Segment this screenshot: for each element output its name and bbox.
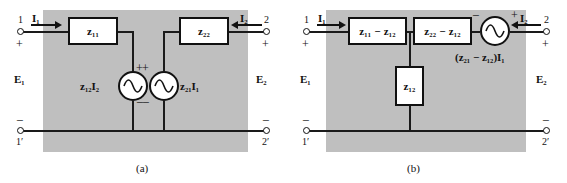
z11-minus-z12-box-label: z₁₁ − z₁₂ bbox=[359, 25, 396, 37]
terminal-2-plus-sign: + bbox=[262, 38, 269, 50]
z22-minus-z12-box: z₂₂ − z₁₂ bbox=[413, 17, 472, 45]
wire-left-branch-top-a bbox=[132, 31, 134, 71]
wire-left-branch-bottom-a bbox=[132, 101, 134, 131]
wire-right-branch-top-a bbox=[163, 31, 165, 71]
terminal-2-prime-label: 2′ bbox=[542, 137, 549, 147]
current-i2-arrow-line-a bbox=[238, 24, 262, 26]
terminal-2-prime[interactable] bbox=[543, 127, 550, 134]
terminal-2-plus-sign: + bbox=[542, 38, 549, 50]
panel-b: z₁₁ − z₁₂ z₂₂ − z₁₂ − + (z₂₁ − z₁₂)I₁ z₁… bbox=[284, 0, 567, 183]
terminal-1-prime-minus-sign: − bbox=[302, 114, 309, 127]
series-source-label-b: (z₂₁ − z₁₂)I₁ bbox=[455, 52, 505, 63]
wire-top-left-b bbox=[306, 31, 348, 33]
series-source-plus-sign-b: + bbox=[511, 9, 518, 21]
wire-bottom-rail-b bbox=[306, 130, 546, 132]
current-i2-label-b: I₂ bbox=[520, 13, 528, 24]
terminal-2[interactable] bbox=[263, 28, 270, 35]
z11-box: z₁₁ bbox=[68, 17, 118, 45]
terminal-1-label: 1 bbox=[18, 15, 23, 25]
terminal-1-prime-label: 1′ bbox=[302, 137, 309, 147]
panel-b-caption: (b) bbox=[407, 163, 420, 174]
right-source-plus-sign-a: + bbox=[142, 62, 149, 74]
terminal-1-label: 1 bbox=[304, 15, 309, 25]
current-i1-arrow-line-b bbox=[317, 24, 339, 26]
series-dependent-source bbox=[480, 16, 510, 46]
z22-box-label: z₂₂ bbox=[198, 25, 210, 37]
current-i1-label-b: I₁ bbox=[318, 13, 326, 24]
voltage-e1-label-a: E₁ bbox=[14, 74, 25, 85]
panel-a-caption: (a) bbox=[136, 163, 148, 174]
voltage-e2-label-a: E₂ bbox=[256, 74, 267, 85]
wire-right-branch-bottom-a bbox=[163, 101, 165, 131]
terminal-2-label: 2 bbox=[264, 15, 269, 25]
ac-source-sine-icon bbox=[482, 18, 508, 44]
wire-top-right-a bbox=[229, 31, 266, 33]
panel-a: z₁₁ + − z₁₂I₂ + − z₂₁I₁ bbox=[0, 0, 283, 183]
right-dependent-source bbox=[149, 71, 179, 101]
current-i2-arrowhead-a bbox=[231, 21, 238, 29]
current-i2-label-a: I₂ bbox=[240, 13, 248, 24]
wire-shunt-bottom-b bbox=[409, 106, 411, 131]
terminal-1-prime[interactable] bbox=[17, 127, 24, 134]
terminal-1[interactable] bbox=[17, 28, 24, 35]
z12-shunt-box: z₁₂ bbox=[395, 66, 424, 106]
terminal-1-prime[interactable] bbox=[303, 127, 310, 134]
wire-bottom-rail-a bbox=[20, 130, 266, 132]
current-i1-label-a: I₁ bbox=[32, 13, 40, 24]
ac-source-sine-icon bbox=[151, 73, 177, 99]
current-i1-arrowhead-a bbox=[55, 21, 62, 29]
terminal-1-plus-sign: + bbox=[302, 38, 309, 50]
voltage-e2-label-b: E₂ bbox=[536, 74, 547, 85]
terminal-1[interactable] bbox=[303, 28, 310, 35]
terminal-1-prime-minus-sign: − bbox=[16, 114, 23, 127]
current-i1-arrowhead-b bbox=[339, 21, 346, 29]
right-source-label-a: z₂₁I₁ bbox=[180, 81, 199, 92]
wire-source-to-terminal-b bbox=[510, 31, 546, 33]
terminal-1-prime-label: 1′ bbox=[16, 137, 23, 147]
z22-box: z₂₂ bbox=[179, 17, 229, 45]
terminal-2-label: 2 bbox=[544, 15, 549, 25]
terminal-2-prime-minus-sign: − bbox=[542, 114, 549, 127]
current-i2-arrowhead-b bbox=[511, 21, 518, 29]
terminal-2[interactable] bbox=[543, 28, 550, 35]
terminal-2-prime[interactable] bbox=[263, 127, 270, 134]
z12-shunt-box-label: z₁₂ bbox=[403, 80, 415, 92]
z11-minus-z12-box: z₁₁ − z₁₂ bbox=[348, 17, 407, 45]
current-i2-arrow-line-b bbox=[518, 24, 541, 26]
wire-shunt-top-b bbox=[409, 31, 411, 66]
z11-box-label: z₁₁ bbox=[87, 25, 99, 37]
current-i1-arrow-line-a bbox=[31, 24, 55, 26]
two-port-network-figure: z₁₁ + − z₁₂I₂ + − z₂₁I₁ bbox=[0, 0, 567, 183]
wire-top-left-a bbox=[20, 31, 68, 33]
right-source-minus-sign-a: − bbox=[142, 96, 149, 109]
terminal-2-prime-minus-sign: − bbox=[262, 114, 269, 127]
z22-minus-z12-box-label: z₂₂ − z₁₂ bbox=[424, 25, 461, 37]
terminal-2-prime-label: 2′ bbox=[262, 137, 269, 147]
wire-node-to-z22-a bbox=[163, 31, 179, 33]
series-source-minus-sign-b: − bbox=[472, 9, 479, 22]
wire-z22box-to-source-b bbox=[472, 31, 480, 33]
voltage-e1-label-b: E₁ bbox=[300, 74, 311, 85]
left-source-label-a: z₁₂I₂ bbox=[80, 81, 99, 92]
terminal-1-plus-sign: + bbox=[16, 38, 23, 50]
